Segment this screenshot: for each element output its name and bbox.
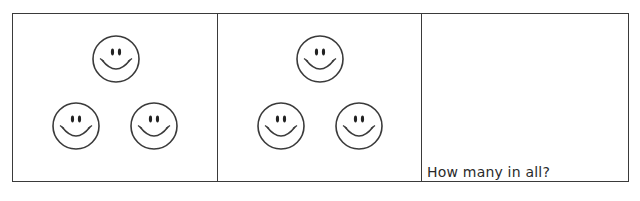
smiley-face-icon xyxy=(51,101,101,151)
group-1-box xyxy=(13,14,218,181)
group-2-box xyxy=(218,14,422,181)
smiley-face-icon xyxy=(256,101,306,151)
smiley-face-icon xyxy=(91,34,141,84)
addition-worksheet: How many in all? xyxy=(12,13,629,182)
answer-prompt: How many in all? xyxy=(427,164,550,180)
smiley-face-icon xyxy=(295,34,345,84)
answer-box[interactable]: How many in all? xyxy=(422,14,628,181)
smiley-face-icon xyxy=(129,101,179,151)
smiley-face-icon xyxy=(334,101,384,151)
